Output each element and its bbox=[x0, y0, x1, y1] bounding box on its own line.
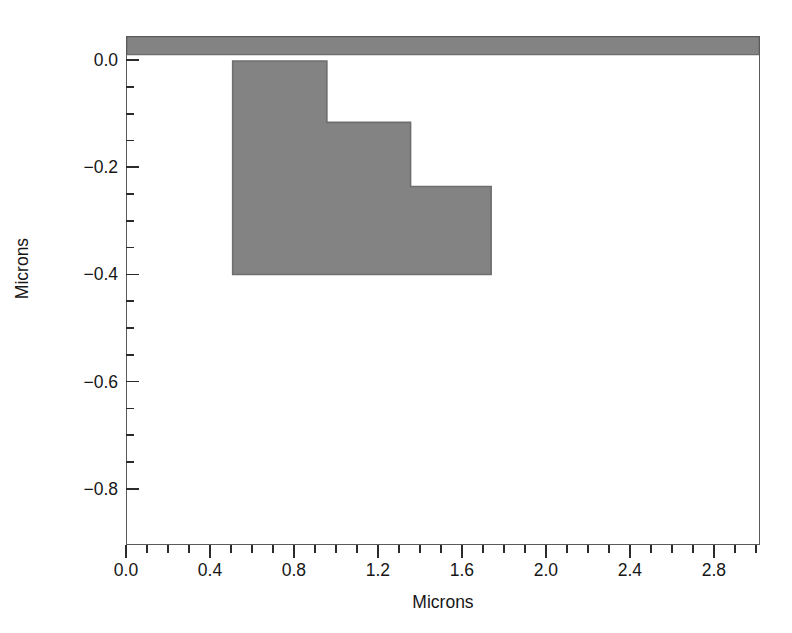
y-tick-minor bbox=[126, 193, 134, 195]
plot-area bbox=[126, 36, 760, 545]
y-tick-minor bbox=[126, 327, 134, 329]
x-tick-minor bbox=[335, 545, 337, 553]
x-tick-minor bbox=[419, 545, 421, 553]
x-tick-minor bbox=[608, 545, 610, 553]
x-ticklabel: 2.0 bbox=[534, 560, 558, 581]
x-ticklabel: 1.6 bbox=[450, 560, 474, 581]
x-tick-major bbox=[545, 545, 547, 558]
y-tick-major bbox=[126, 488, 139, 490]
y-axis-ticks bbox=[126, 36, 140, 545]
x-tick-minor bbox=[314, 545, 316, 553]
y-tick-minor bbox=[126, 354, 134, 356]
x-axis-ticks bbox=[126, 545, 760, 559]
x-tick-major bbox=[713, 545, 715, 558]
y-tick-minor bbox=[126, 247, 134, 249]
y-tick-minor bbox=[126, 113, 134, 115]
y-ticklabel: −0.8 bbox=[83, 478, 118, 499]
x-tick-major bbox=[293, 545, 295, 558]
x-tick-minor bbox=[188, 545, 190, 553]
x-tick-minor bbox=[524, 545, 526, 553]
x-tick-minor bbox=[587, 545, 589, 553]
x-tick-minor bbox=[398, 545, 400, 553]
y-tick-minor bbox=[126, 140, 134, 142]
x-tick-minor bbox=[440, 545, 442, 553]
x-tick-minor bbox=[566, 545, 568, 553]
x-ticklabel: 0.4 bbox=[198, 560, 222, 581]
x-tick-major bbox=[629, 545, 631, 558]
y-tick-major bbox=[126, 166, 139, 168]
x-tick-minor bbox=[734, 545, 736, 553]
x-ticklabel: 2.8 bbox=[702, 560, 726, 581]
substrate-shape bbox=[127, 37, 759, 55]
resist-feature-shape bbox=[233, 61, 491, 274]
y-tick-minor bbox=[126, 86, 134, 88]
x-tick-minor bbox=[251, 545, 253, 553]
x-tick-minor bbox=[755, 545, 757, 553]
x-tick-major bbox=[125, 545, 127, 558]
x-axis-title: Microns bbox=[126, 592, 760, 613]
y-tick-minor bbox=[126, 300, 134, 302]
y-ticklabel: −0.6 bbox=[83, 371, 118, 392]
x-tick-minor bbox=[650, 545, 652, 553]
y-tick-minor bbox=[126, 220, 134, 222]
y-ticklabel: −0.2 bbox=[83, 157, 118, 178]
y-tick-minor bbox=[126, 434, 134, 436]
x-tick-major bbox=[377, 545, 379, 558]
y-tick-minor bbox=[126, 408, 134, 410]
y-ticklabel: 0.0 bbox=[94, 50, 118, 71]
x-tick-major bbox=[461, 545, 463, 558]
x-ticklabel: 0.8 bbox=[282, 560, 306, 581]
x-tick-minor bbox=[272, 545, 274, 553]
x-tick-minor bbox=[671, 545, 673, 553]
x-tick-minor bbox=[146, 545, 148, 553]
y-tick-major bbox=[126, 59, 139, 61]
x-ticklabel: 0.0 bbox=[114, 560, 138, 581]
x-tick-minor bbox=[167, 545, 169, 553]
x-tick-minor bbox=[692, 545, 694, 553]
figure-canvas: −0.8−0.6−0.4−0.20.0 0.00.40.81.21.62.02.… bbox=[0, 0, 792, 633]
y-tick-major bbox=[126, 274, 139, 276]
x-tick-minor bbox=[230, 545, 232, 553]
y-tick-minor bbox=[126, 461, 134, 463]
x-tick-minor bbox=[482, 545, 484, 553]
x-tick-major bbox=[209, 545, 211, 558]
x-tick-minor bbox=[503, 545, 505, 553]
x-ticklabel: 2.4 bbox=[618, 560, 642, 581]
y-ticklabel: −0.4 bbox=[83, 264, 118, 285]
y-axis-ticklabels: −0.8−0.6−0.4−0.20.0 bbox=[40, 36, 118, 545]
y-axis-title: Microns bbox=[12, 209, 33, 329]
x-tick-minor bbox=[356, 545, 358, 553]
x-axis-ticklabels: 0.00.40.81.21.62.02.42.8 bbox=[126, 560, 760, 590]
resist-profile-geometry bbox=[127, 37, 759, 544]
x-ticklabel: 1.2 bbox=[366, 560, 390, 581]
y-tick-major bbox=[126, 381, 139, 383]
